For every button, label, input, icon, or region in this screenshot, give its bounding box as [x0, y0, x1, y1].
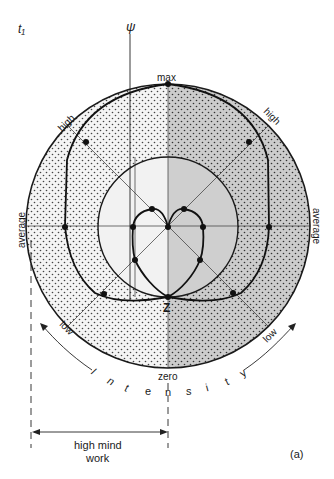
svg-text:s: s [186, 385, 192, 397]
point-high-right [246, 139, 252, 145]
dim-arrow-right-icon [160, 429, 168, 435]
dim-arrow-left-icon [32, 429, 40, 435]
psi-label: ψ [126, 19, 136, 34]
average-left-label: average [16, 211, 27, 248]
svg-text:t: t [223, 375, 231, 387]
svg-text:t: t [123, 381, 131, 394]
point-heart-br [197, 257, 203, 263]
corner-label: t₁ [18, 22, 25, 36]
point-center [165, 224, 171, 230]
z-label: Z [163, 301, 170, 315]
dimension-label-line2: work [85, 452, 110, 464]
intensity-polar-diagram: t₁ ψ max high high average average low l… [0, 0, 334, 479]
point-heart-r [200, 224, 206, 230]
svg-text:n: n [106, 374, 117, 387]
point-heart-l [130, 224, 136, 230]
point-heart-tl [149, 206, 155, 212]
point-heart-bl [132, 257, 138, 263]
panel-label: (a) [290, 448, 303, 460]
svg-text:e: e [145, 385, 151, 397]
max-label: max [157, 72, 176, 83]
svg-text:I: I [89, 365, 98, 377]
point-average-right [266, 224, 272, 230]
zero-label: zero [158, 371, 178, 382]
point-z [165, 294, 171, 300]
average-right-label: average [311, 208, 322, 245]
point-high-left [83, 139, 89, 145]
point-heart-tr [181, 206, 187, 212]
point-average-left [62, 224, 68, 230]
point-low-right [230, 290, 236, 296]
point-low-left [101, 291, 107, 297]
dimension-label-line1: high mind [74, 439, 122, 451]
svg-text:i: i [204, 381, 209, 393]
